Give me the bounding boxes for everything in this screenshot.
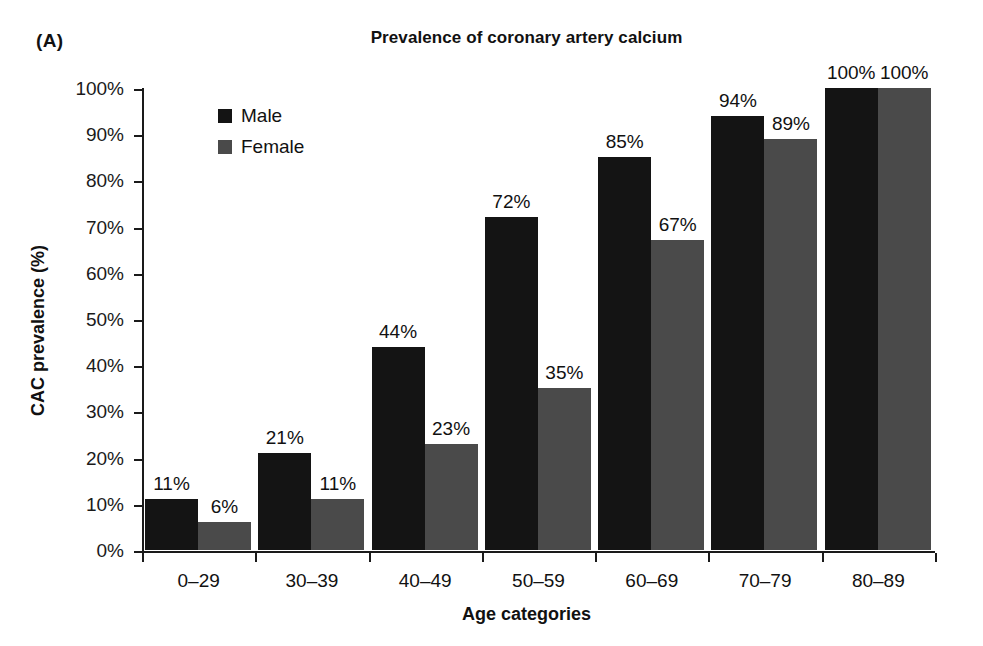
plot-area: 0%10%20%30%40%50%60%70%80%90%100%0–2911%… — [142, 88, 935, 552]
figure-panel-a: (A) Prevalence of coronary artery calciu… — [0, 0, 983, 646]
bar-value-label: 85% — [580, 131, 670, 153]
bar-value-label: 6% — [180, 496, 270, 518]
y-axis-tick-label: 90% — [54, 124, 124, 146]
y-axis-tick-label: 60% — [54, 263, 124, 285]
bar-female-60-69 — [651, 240, 704, 550]
y-axis-tick-label: 20% — [54, 448, 124, 470]
bar-value-label: 35% — [519, 362, 609, 384]
x-axis-tick — [142, 553, 144, 562]
bar-female-40-49 — [425, 444, 478, 550]
y-axis-tick — [134, 89, 142, 91]
bar-male-30-39 — [258, 453, 311, 550]
y-axis-tick — [134, 551, 142, 553]
y-axis-tick-label: 40% — [54, 355, 124, 377]
x-axis-tick — [822, 553, 824, 562]
y-axis-tick — [134, 412, 142, 414]
bar-value-label: 11% — [293, 473, 383, 495]
bar-female-50-59 — [538, 388, 591, 550]
bar-value-label: 23% — [406, 418, 496, 440]
y-axis-tick — [134, 181, 142, 183]
chart-title: Prevalence of coronary artery calcium — [0, 28, 983, 48]
y-axis-tick-label: 100% — [54, 78, 124, 100]
x-axis-tick — [255, 553, 257, 562]
y-axis-tick — [134, 228, 142, 230]
y-axis-tick-label: 80% — [54, 170, 124, 192]
bar-female-70-79 — [764, 139, 817, 550]
y-axis-tick-label: 30% — [54, 401, 124, 423]
bar-female-0-29 — [198, 522, 251, 550]
x-axis-line — [142, 551, 935, 553]
bar-value-label: 100% — [859, 62, 949, 84]
bar-value-label: 89% — [746, 113, 836, 135]
y-axis-tick — [134, 505, 142, 507]
y-axis-tick — [134, 274, 142, 276]
bar-male-80-89 — [825, 88, 878, 550]
x-axis-tick-label: 80–89 — [808, 570, 948, 592]
x-axis-tick — [369, 553, 371, 562]
y-axis-tick — [134, 320, 142, 322]
bar-value-label: 11% — [127, 473, 217, 495]
y-axis-tick — [134, 135, 142, 137]
bar-value-label: 44% — [353, 321, 443, 343]
bar-male-40-49 — [372, 347, 425, 550]
x-axis-tick — [935, 553, 937, 562]
x-axis-tick — [708, 553, 710, 562]
y-axis-tick-label: 50% — [54, 309, 124, 331]
bar-value-label: 67% — [633, 214, 723, 236]
y-axis-tick-label: 0% — [54, 540, 124, 562]
bar-value-label: 94% — [693, 90, 783, 112]
y-axis-tick-label: 70% — [54, 217, 124, 239]
bar-female-80-89 — [878, 88, 931, 550]
y-axis-title: CAC prevalence (%) — [28, 31, 49, 631]
x-axis-tick — [595, 553, 597, 562]
x-axis-tick — [482, 553, 484, 562]
bar-female-30-39 — [311, 499, 364, 550]
y-axis-tick — [134, 459, 142, 461]
bar-value-label: 21% — [240, 427, 330, 449]
y-axis-tick-label: 10% — [54, 494, 124, 516]
y-axis-tick — [134, 366, 142, 368]
bar-male-70-79 — [711, 116, 764, 550]
x-axis-title: Age categories — [0, 604, 983, 625]
bar-value-label: 72% — [466, 191, 556, 213]
